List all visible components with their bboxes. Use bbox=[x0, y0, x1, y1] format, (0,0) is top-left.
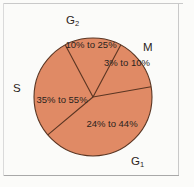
phase-label-g1: G1 bbox=[131, 155, 144, 167]
phase-label-g2-text: G bbox=[66, 14, 75, 26]
phase-label-g1-subscript: 1 bbox=[140, 160, 144, 169]
slice-value-m: 3% to 10% bbox=[104, 58, 144, 68]
phase-label-s-text: S bbox=[13, 82, 21, 94]
phase-label-g1-text: G bbox=[131, 155, 140, 167]
pie-chart-graphic bbox=[0, 0, 194, 187]
phase-label-s: S bbox=[13, 82, 21, 94]
cell-cycle-pie-figure: G2 M S G1 10% to 25% 3% to 10% 35% to 55… bbox=[0, 0, 194, 187]
phase-label-g2-subscript: 2 bbox=[75, 19, 79, 28]
slice-value-s: 35% to 55% bbox=[22, 95, 102, 105]
phase-label-m: M bbox=[143, 41, 153, 53]
slice-value-g1: 24% to 44% bbox=[72, 119, 152, 129]
phase-label-g2: G2 bbox=[66, 14, 79, 26]
slice-value-g2: 10% to 25% bbox=[63, 40, 119, 50]
phase-label-m-text: M bbox=[143, 41, 153, 53]
